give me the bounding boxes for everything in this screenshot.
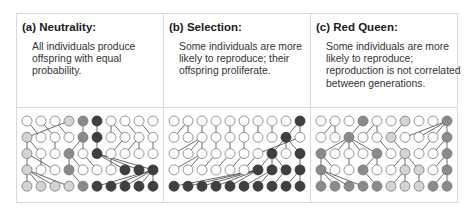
individual-node [358,116,368,126]
individual-node [386,149,396,159]
individual-node [92,132,102,142]
individual-node [330,165,340,175]
individual-node [400,116,410,126]
individual-node [134,116,144,126]
lineage-link [405,121,447,137]
panel-b-description: Some individuals are more likely to repr… [179,41,309,78]
individual-node [281,149,291,159]
individual-node [414,165,424,175]
individual-node [414,116,424,126]
panel-b-title: (b) Selection: [169,21,242,33]
individual-node [197,132,207,142]
individual-node [22,181,32,191]
individual-node [372,149,382,159]
individual-node [64,165,74,175]
individual-node [78,149,88,159]
individual-node [169,165,179,175]
individual-node [36,149,46,159]
individual-node [211,116,221,126]
individual-node [344,165,354,175]
individual-node [330,132,340,142]
individual-node [358,165,368,175]
individual-node [239,149,249,159]
individual-node [330,181,340,191]
panel-a-genealogy-diagram [16,108,163,202]
individual-node [106,116,116,126]
individual-node [36,132,46,142]
individual-node [253,165,263,175]
individual-node [183,132,193,142]
individual-node [197,181,207,191]
individual-node [239,165,249,175]
individual-node [92,116,102,126]
individual-node [134,165,144,175]
individual-node [372,165,382,175]
panel-a-title: (a) Neutrality: [22,21,96,33]
individual-node [358,181,368,191]
individual-node [428,149,438,159]
individual-node [428,132,438,142]
individual-node [316,165,326,175]
individual-node [36,116,46,126]
individual-node [267,165,277,175]
individual-node [106,149,116,159]
individual-node [414,181,424,191]
individual-node [92,181,102,191]
individual-node [169,116,179,126]
individual-node [22,116,32,126]
individual-node [330,149,340,159]
individual-node [64,181,74,191]
individual-node [400,149,410,159]
individual-node [400,165,410,175]
individual-node [50,165,60,175]
individual-node [386,181,396,191]
individual-node [239,181,249,191]
individual-node [197,116,207,126]
panel-c-title: (c) Red Queen: [316,21,398,33]
individual-node [295,181,305,191]
individual-node [78,116,88,126]
individual-node [372,181,382,191]
individual-node [78,132,88,142]
individual-node [22,165,32,175]
individual-node [414,149,424,159]
lineage-link [27,170,69,186]
individual-node [120,181,130,191]
individual-node [64,132,74,142]
individual-node [134,132,144,142]
individual-node [92,165,102,175]
individual-node [225,181,235,191]
individual-node [211,165,221,175]
individual-node [148,116,158,126]
individual-node [36,165,46,175]
individual-node [316,181,326,191]
individual-node [358,132,368,142]
individual-node [330,116,340,126]
individual-node [120,149,130,159]
panel-c-description: Some individuals are more likely to repr… [326,41,464,90]
individual-node [253,149,263,159]
individual-node [22,149,32,159]
individual-node [428,116,438,126]
individual-node [78,165,88,175]
individual-node [239,116,249,126]
panel-a-text: (a) Neutrality: All individuals produce … [16,13,163,107]
individual-node [225,149,235,159]
individual-node [281,116,291,126]
individual-node [22,132,32,142]
individual-node [428,165,438,175]
individual-node [183,149,193,159]
individual-node [442,149,452,159]
individual-node [281,181,291,191]
individual-node [225,165,235,175]
individual-node [148,149,158,159]
individual-node [169,181,179,191]
individual-node [267,132,277,142]
panel-c-genealogy-diagram [310,108,458,202]
individual-node [281,165,291,175]
individual-node [148,181,158,191]
individual-node [295,132,305,142]
individual-node [386,132,396,142]
individual-node [253,116,263,126]
individual-node [120,116,130,126]
